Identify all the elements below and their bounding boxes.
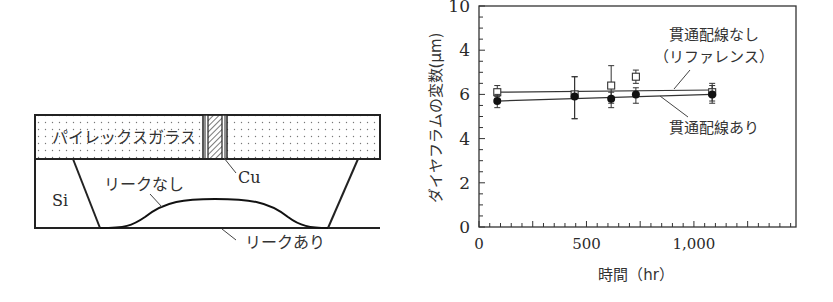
glass-label: パイレックスガラス (52, 128, 196, 147)
filled-circle-marker (607, 95, 615, 103)
fit-line (497, 90, 712, 92)
x-axis-ticks (479, 221, 791, 227)
x-tick-label: 1,000 (672, 235, 715, 253)
y-tick-label: 0 (459, 217, 470, 237)
leak-label: リークあり (245, 233, 325, 252)
y-tick-label: 4 (459, 40, 470, 60)
series-with-via (493, 77, 716, 119)
si-label: Si (52, 191, 68, 210)
y-axis-ticks (479, 6, 485, 227)
annotation-reference-line1: 貫通配線なし (669, 26, 759, 44)
y-tick-label: 10 (448, 0, 470, 16)
open-square-marker (608, 82, 615, 89)
series-reference (494, 66, 716, 119)
figure: パイレックスガラス Si Cu リークなし リークあり 1046420 0500… (0, 0, 833, 302)
filled-circle-marker (708, 90, 716, 98)
y-axis-tick-labels: 1046420 (448, 0, 470, 237)
y-tick-label: 6 (459, 84, 470, 104)
y-tick-label: 4 (459, 129, 470, 149)
filled-circle-marker (571, 93, 579, 101)
fit-line (497, 94, 712, 101)
x-tick-label: 0 (474, 235, 484, 253)
cu-via (208, 115, 222, 159)
x-axis-tick-labels: 05001,000 (474, 235, 715, 253)
annotation-reference-line2: （リファレンス） (654, 48, 774, 66)
annotation-reference-leader (674, 70, 690, 89)
cavity-left-wall (73, 159, 100, 228)
diaphragm-no-leak-curve (100, 199, 328, 228)
data-series (493, 66, 716, 119)
chart: 1046420 05001,000 ダイヤフラムの変数(μm) 時間（hr） 貫… (427, 0, 796, 284)
annotation-with-via-leader (660, 96, 688, 117)
filled-circle-marker (493, 97, 501, 105)
y-tick-label: 2 (459, 173, 470, 193)
filled-circle-marker (632, 90, 640, 98)
cross-section-diagram: パイレックスガラス Si Cu リークなし リークあり (35, 115, 380, 252)
y-axis-title: ダイヤフラムの変数(μm) (427, 33, 445, 204)
cavity-right-wall (328, 159, 358, 228)
annotation-with-via: 貫通配線あり (669, 119, 759, 137)
no-leak-label: リークなし (104, 175, 184, 194)
x-axis-title: 時間（hr） (598, 266, 674, 284)
open-square-marker (632, 73, 639, 80)
cu-label: Cu (238, 168, 261, 187)
x-tick-label: 500 (572, 235, 601, 253)
